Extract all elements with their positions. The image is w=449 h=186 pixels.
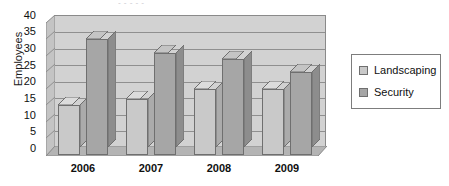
y-tick-label: 5 xyxy=(14,126,36,137)
bar-front-face xyxy=(262,89,284,155)
bar-side-face xyxy=(244,51,252,147)
bar-front-face xyxy=(58,105,80,155)
x-tick-label-2007: 2007 xyxy=(130,162,172,174)
bar-landscaping-2009 xyxy=(262,89,284,155)
y-tick-label: 30 xyxy=(14,43,36,54)
bar-side-face xyxy=(176,45,184,147)
bar-top-face xyxy=(262,81,284,89)
x-tick-label-2006: 2006 xyxy=(62,162,104,174)
legend-label: Landscaping xyxy=(374,65,436,76)
bar-front-face xyxy=(154,53,176,155)
x-tick-label-2009: 2009 xyxy=(266,162,308,174)
bar-landscaping-2008 xyxy=(194,89,216,155)
bar-front-face xyxy=(126,99,148,155)
bar-top-face xyxy=(126,91,148,99)
bar-top-face xyxy=(154,45,176,53)
legend-label: Security xyxy=(374,87,414,98)
y-tick-label: 25 xyxy=(14,60,36,71)
bar-top-face xyxy=(58,97,80,105)
bar-front-face xyxy=(222,59,244,155)
bar-front-face xyxy=(86,39,108,155)
legend-item-security: Security xyxy=(359,85,414,99)
x-tick-label-2008: 2008 xyxy=(198,162,240,174)
y-tick-label: 20 xyxy=(14,76,36,87)
chart-legend: Landscaping Security xyxy=(351,54,441,109)
bar-top-face xyxy=(194,81,216,89)
bar-landscaping-2007 xyxy=(126,99,148,155)
bar-front-face xyxy=(290,72,312,155)
bar-security-2007 xyxy=(154,53,176,155)
bar-top-face xyxy=(86,31,108,39)
bar-chart: • • • • • Employees 40 35 30 25 20 15 10… xyxy=(0,0,449,186)
y-tick-label: 0 xyxy=(14,143,36,154)
y-tick-label: 10 xyxy=(14,110,36,121)
bar-top-face xyxy=(290,64,312,72)
legend-swatch-icon xyxy=(359,66,368,75)
legend-item-landscaping: Landscaping xyxy=(359,63,436,77)
bar-side-face xyxy=(108,31,116,147)
bar-front-face xyxy=(194,89,216,155)
y-tick-label: 35 xyxy=(14,26,36,37)
clipped-text-remnant: • • • • • xyxy=(118,0,318,4)
bar-security-2009 xyxy=(290,72,312,155)
bar-top-face xyxy=(222,51,244,59)
bar-landscaping-2006 xyxy=(58,105,80,155)
y-tick-label: 15 xyxy=(14,93,36,104)
bar-side-face xyxy=(312,64,320,147)
bar-security-2006 xyxy=(86,39,108,155)
legend-swatch-icon xyxy=(359,88,368,97)
bar-security-2008 xyxy=(222,59,244,155)
plot-left-wall xyxy=(46,15,55,156)
y-axis-ticks: 40 35 30 25 20 15 10 5 0 xyxy=(12,0,36,186)
y-tick-label: 40 xyxy=(14,10,36,21)
